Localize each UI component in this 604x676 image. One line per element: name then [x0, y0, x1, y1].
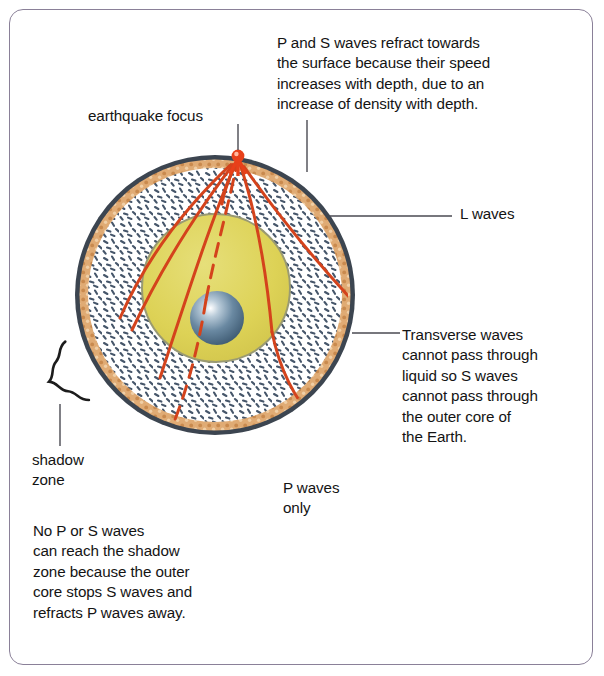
- label-l-waves: L waves: [460, 204, 514, 224]
- label-p-waves-only: P waves only: [283, 478, 383, 519]
- shadow-zone-brace: [37, 342, 88, 412]
- note-refraction: P and S waves refract towards the surfac…: [277, 33, 577, 115]
- note-shadow-zone: No P or S waves can reach the shadow zon…: [33, 521, 283, 623]
- label-shadow-zone: shadow zone: [32, 450, 122, 491]
- note-transverse-waves: Transverse waves cannot pass through liq…: [402, 325, 592, 447]
- inner-core-layer: [190, 291, 244, 345]
- label-earthquake-focus: earthquake focus: [88, 106, 203, 126]
